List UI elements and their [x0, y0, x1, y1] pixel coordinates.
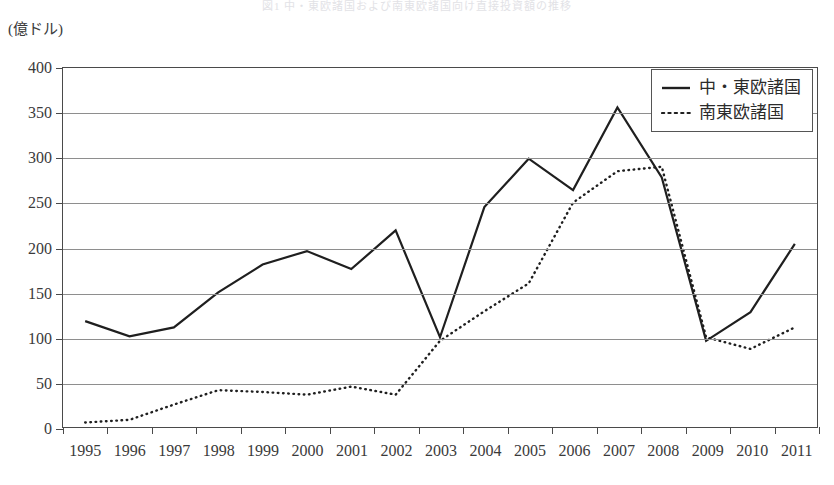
series-line-solid: [85, 107, 795, 340]
legend-label-1: 南東欧諸国: [699, 103, 784, 122]
series-polyline: [85, 107, 795, 340]
x-axis-tick: [463, 427, 464, 434]
x-axis-label: 2004: [469, 443, 501, 459]
x-axis-tick: [641, 427, 642, 434]
x-axis-label: 1995: [69, 443, 101, 459]
x-axis-tick: [63, 427, 64, 434]
x-axis-label: 2002: [381, 443, 413, 459]
x-axis-label: 2009: [692, 443, 724, 459]
x-axis-tick: [686, 427, 687, 434]
y-axis-label: 400: [28, 60, 52, 76]
x-axis-label: 2011: [781, 443, 812, 459]
gridline: [63, 158, 817, 159]
x-axis-tick: [597, 427, 598, 434]
x-axis-tick: [374, 427, 375, 434]
gridline: [63, 203, 817, 204]
y-axis-tick: [56, 429, 63, 430]
y-axis-label: 200: [28, 241, 52, 257]
legend-item-0[interactable]: 中・東欧諸国: [661, 75, 803, 100]
y-axis-tick: [56, 113, 63, 114]
gridline: [63, 294, 817, 295]
solid-line-icon: [661, 82, 691, 94]
y-axis-tick: [56, 294, 63, 295]
x-axis-tick: [152, 427, 153, 434]
x-axis-label: 1998: [203, 443, 235, 459]
y-axis-label: 250: [28, 195, 52, 211]
y-axis-tick: [56, 339, 63, 340]
y-axis-label: 100: [28, 331, 52, 347]
x-axis-label: 2007: [603, 443, 635, 459]
x-axis-tick: [819, 427, 820, 434]
gridline: [63, 384, 817, 385]
x-axis-label: 2005: [514, 443, 546, 459]
y-axis-label: 350: [28, 105, 52, 121]
y-axis-tick: [56, 68, 63, 69]
y-axis-label: 150: [28, 286, 52, 302]
dotted-line-icon: [661, 107, 691, 119]
x-axis-tick: [241, 427, 242, 434]
x-axis-tick: [107, 427, 108, 434]
y-axis-label: 0: [44, 421, 52, 437]
x-axis-tick: [196, 427, 197, 434]
y-axis-tick: [56, 384, 63, 385]
x-axis-label: 2003: [425, 443, 457, 459]
x-axis-tick: [775, 427, 776, 434]
legend-label-0: 中・東欧諸国: [699, 78, 801, 97]
x-axis-label: 2001: [336, 443, 368, 459]
x-axis-tick: [552, 427, 553, 434]
chart-legend: 中・東欧諸国 南東欧諸国: [651, 69, 813, 132]
y-axis-label: 50: [36, 376, 52, 392]
x-axis-tick: [508, 427, 509, 434]
x-axis-label: 1996: [114, 443, 146, 459]
x-axis-label: 2010: [736, 443, 768, 459]
legend-item-1[interactable]: 南東欧諸国: [661, 100, 803, 125]
y-axis-label: 300: [28, 150, 52, 166]
x-axis-label: 2006: [558, 443, 590, 459]
x-axis-tick: [285, 427, 286, 434]
x-axis-label: 2000: [292, 443, 324, 459]
gridline: [63, 249, 817, 250]
x-axis-tick: [330, 427, 331, 434]
line-chart: 0501001502002503003504001995199619971998…: [0, 0, 834, 485]
x-axis-label: 2008: [647, 443, 679, 459]
x-axis-tick: [419, 427, 420, 434]
y-axis-tick: [56, 249, 63, 250]
x-axis-tick: [730, 427, 731, 434]
y-axis-tick: [56, 203, 63, 204]
gridline: [63, 339, 817, 340]
x-axis-label: 1999: [247, 443, 279, 459]
y-axis-tick: [56, 158, 63, 159]
x-axis-label: 1997: [158, 443, 190, 459]
